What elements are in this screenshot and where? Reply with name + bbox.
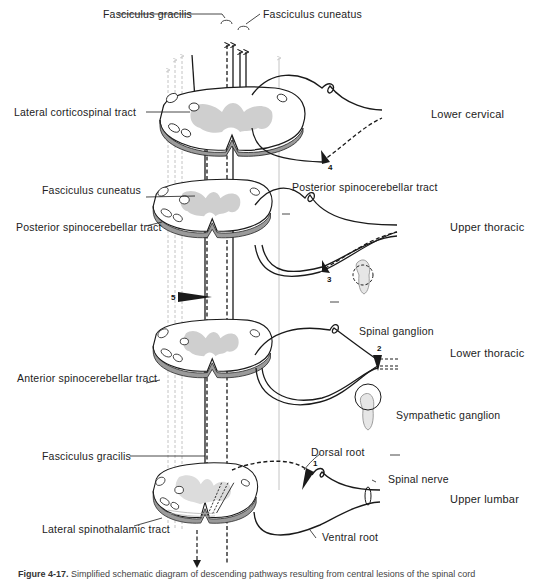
label-spinal-nerve: Spinal nerve: [388, 473, 449, 485]
label-fasciculus-cuneatus-mid: Fasciculus cuneatus: [42, 184, 141, 196]
caption-text: Simplified schematic diagram of descendi…: [71, 569, 475, 579]
level-upper-lumbar: Upper lumbar: [450, 493, 519, 505]
label-dorsal-root: Dorsal root: [311, 446, 365, 458]
level-upper-thoracic: Upper thoracic: [450, 221, 524, 233]
marker-3: [322, 260, 330, 273]
marker-3-label: 3: [327, 275, 331, 284]
label-lateral-spinothalamic-tract: Lateral spinothalamic tract: [42, 523, 170, 535]
marker-5-label: 5: [171, 293, 175, 302]
label-sympathetic-ganglion: Sympathetic ganglion: [396, 409, 500, 421]
segment-lower-thoracic: [153, 319, 272, 377]
label-anterior-spinocerebellar-tract: Anterior spinocerebellar tract: [17, 372, 157, 384]
caption-label: Figure 4-17.: [18, 569, 69, 579]
label-fasciculus-cuneatus-top: Fasciculus cuneatus: [263, 8, 362, 20]
label-fasciculus-gracilis-top: Fasciculus gracilis: [103, 8, 192, 20]
bottom-descending-arrow: [193, 530, 201, 568]
sympathetic-ganglion-lower: [355, 384, 381, 430]
level-lower-thoracic: Lower thoracic: [450, 347, 524, 359]
level-lower-cervical: Lower cervical: [431, 108, 504, 120]
segment-upper-lumbar: [153, 463, 257, 523]
sympathetic-ganglion-upper: [353, 260, 373, 294]
label-posterior-spinocerebellar-tract-left: Posterior spinocerebellar tract: [16, 221, 162, 233]
marker-2-label: 2: [377, 344, 381, 353]
figure-caption: Figure 4-17. Simplified schematic diagra…: [18, 569, 538, 581]
label-lateral-corticospinal-tract: Lateral corticospinal tract: [14, 106, 136, 118]
marker-1: [302, 468, 314, 490]
marker-4-label: 4: [328, 163, 332, 172]
label-posterior-spinocerebellar-tract-right: Posterior spinocerebellar tract: [292, 181, 438, 193]
lower-thoracic-dashed-exits: [380, 359, 400, 369]
segment-upper-thoracic: [153, 179, 272, 237]
marker-1-label: 1: [313, 459, 317, 468]
label-spinal-ganglion: Spinal ganglion: [359, 325, 434, 337]
upper-thoracic-roots: [255, 188, 397, 276]
label-ventral-root: Ventral root: [322, 531, 378, 543]
segment-lower-cervical: [160, 87, 305, 156]
label-fasciculus-gracilis-bottom: Fasciculus gracilis: [42, 450, 131, 462]
